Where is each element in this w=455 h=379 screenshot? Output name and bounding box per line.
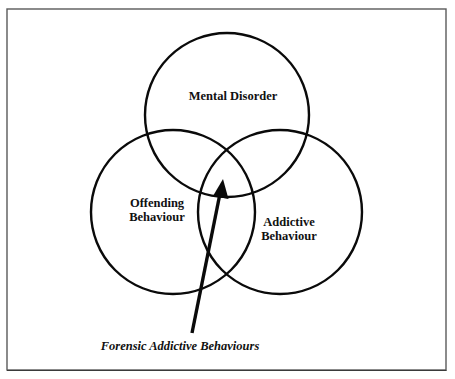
arrow-shaft (192, 196, 220, 333)
offending-behaviour-label-line1: Offending (130, 196, 185, 210)
mental-disorder-circle (145, 33, 309, 197)
diagram-frame (7, 9, 446, 370)
offending-behaviour-label-line2: Behaviour (129, 210, 185, 224)
forensic-addictive-behaviours-caption: Forensic Addictive Behaviours (100, 339, 260, 353)
arrow-head (213, 179, 229, 199)
addictive-behaviour-circle (198, 130, 362, 294)
addictive-behaviour-label-line1: Addictive (263, 215, 315, 229)
addictive-behaviour-label-line2: Behaviour (261, 229, 317, 243)
mental-disorder-label: Mental Disorder (189, 89, 278, 103)
venn-diagram: Mental Disorder Offending Behaviour Addi… (0, 0, 455, 379)
